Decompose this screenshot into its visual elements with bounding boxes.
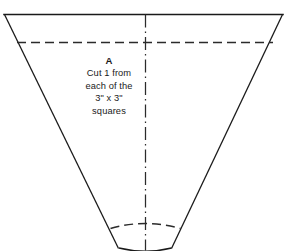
pattern-drawing xyxy=(0,0,286,251)
cut-instruction-line-4: squares xyxy=(73,105,145,118)
pattern-figure: A Cut 1 from each of the 3" x 3" squares xyxy=(0,0,286,251)
cut-instruction-line-1: Cut 1 from xyxy=(73,67,145,80)
cut-instruction-line-3: 3" x 3" xyxy=(73,92,145,105)
cut-instruction-line-2: each of the xyxy=(73,80,145,93)
piece-label-block: A Cut 1 from each of the 3" x 3" squares xyxy=(73,54,145,117)
left-edge-line xyxy=(5,15,119,249)
right-edge-line xyxy=(172,15,283,249)
piece-label-letter: A xyxy=(73,54,145,67)
